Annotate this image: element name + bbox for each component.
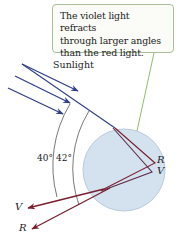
incident-ray bbox=[22, 64, 115, 128]
reflect-v-label: V bbox=[157, 165, 164, 176]
exit-r-label: R bbox=[19, 222, 27, 233]
callout-pointer bbox=[137, 53, 154, 131]
water-droplet bbox=[83, 129, 165, 211]
sunlight-label: Sunlight bbox=[53, 59, 94, 70]
callout-line-1: The violet light refracts bbox=[60, 10, 167, 35]
sun-ray-3 bbox=[8, 88, 63, 114]
callout-box: The violet light refracts through larger… bbox=[52, 4, 174, 53]
callout-line-3: than the red light. bbox=[60, 47, 167, 59]
angle-42-label: 42° bbox=[56, 153, 72, 163]
arc-40-degrees bbox=[53, 104, 70, 197]
angle-40-label: 40° bbox=[37, 153, 53, 163]
callout-line-2: through larger angles bbox=[60, 35, 167, 47]
exit-v-label: V bbox=[15, 201, 22, 212]
exit-ray-red bbox=[32, 188, 110, 229]
reflect-r-label: R bbox=[157, 154, 165, 165]
exit-ray-violet bbox=[28, 189, 104, 208]
sun-ray-2 bbox=[15, 76, 70, 103]
